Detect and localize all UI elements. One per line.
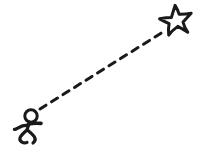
illustration-canvas: [0, 0, 200, 152]
scene-drawing: [0, 0, 200, 152]
stick-figure-front-arm: [29, 123, 41, 124]
